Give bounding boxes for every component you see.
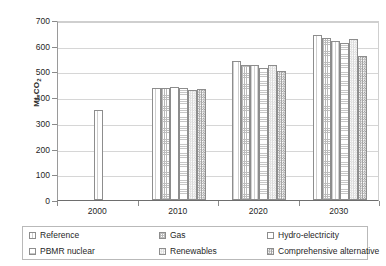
bar	[170, 87, 179, 200]
bar-group-2000	[58, 22, 139, 200]
y-axis-tick-label: 400	[20, 94, 50, 103]
x-axis-tick-label: 2010	[143, 206, 213, 216]
y-axis-tick-label: 200	[20, 146, 50, 155]
legend-item[interactable]: Gas	[159, 230, 267, 240]
y-axis-tick-label: 100	[20, 171, 50, 180]
bar	[188, 90, 197, 200]
bar	[277, 71, 286, 200]
bar	[313, 35, 322, 200]
y-axis-title-subscript: 2	[36, 78, 42, 82]
x-axis-tick-mark	[138, 201, 139, 206]
bar	[331, 41, 340, 200]
bar	[197, 89, 206, 200]
x-axis-tick-label: 2000	[62, 206, 132, 216]
y-axis-tick-label: 0	[20, 197, 50, 206]
legend-item-label: Hydro-electricity	[278, 230, 339, 240]
chart-figure: Mt-CO2 0100200300400500600700 2000201020…	[0, 0, 386, 266]
bar	[349, 39, 358, 200]
legend-item[interactable]: Hydro-electricity	[267, 230, 379, 240]
y-axis-tick-label: 600	[20, 43, 50, 52]
x-axis-tick-mark	[379, 201, 380, 206]
x-axis-tick-mark	[218, 201, 219, 206]
x-axis-tick-mark	[299, 201, 300, 206]
y-axis-tick-label: 300	[20, 120, 50, 129]
legend-item[interactable]: Reference	[29, 230, 159, 240]
legend-item-label: Comprehensive alternative	[278, 246, 379, 256]
x-axis-tick-label: 2030	[304, 206, 374, 216]
bar	[161, 88, 170, 200]
legend-item[interactable]: Renewables	[159, 246, 267, 256]
legend-swatch-icon	[29, 232, 36, 239]
legend-swatch-icon	[267, 232, 274, 239]
bar	[232, 61, 241, 200]
bar	[179, 88, 188, 200]
bar-group-2010	[139, 22, 220, 200]
legend-item-label: Gas	[170, 230, 186, 240]
bar	[340, 43, 349, 200]
bar	[259, 68, 268, 200]
bar	[358, 56, 367, 200]
legend-item-label: PBMR nuclear	[40, 246, 95, 256]
legend-item-label: Renewables	[170, 246, 217, 256]
bar	[322, 38, 331, 200]
y-axis-tick-label: 700	[20, 17, 50, 26]
bar-group-2030	[300, 22, 381, 200]
bar	[250, 65, 259, 200]
x-axis-tick-mark	[57, 201, 58, 206]
y-axis-tick-label: 500	[20, 68, 50, 77]
legend-item-label: Reference	[40, 230, 79, 240]
bar	[268, 65, 277, 201]
bar	[152, 88, 161, 200]
legend-swatch-icon	[29, 248, 36, 255]
bar	[94, 110, 103, 200]
legend-swatch-icon	[159, 232, 166, 239]
x-axis-tick-label: 2020	[223, 206, 293, 216]
legend-item[interactable]: Comprehensive alternative	[267, 246, 379, 256]
bar	[241, 65, 250, 201]
plot-area	[57, 21, 379, 201]
legend-swatch-icon	[159, 248, 166, 255]
bar-group-2020	[219, 22, 300, 200]
legend-swatch-icon	[267, 248, 274, 255]
chart-legend: ReferenceGasHydro-electricityPBMR nuclea…	[22, 226, 368, 260]
legend-item[interactable]: PBMR nuclear	[29, 246, 159, 256]
